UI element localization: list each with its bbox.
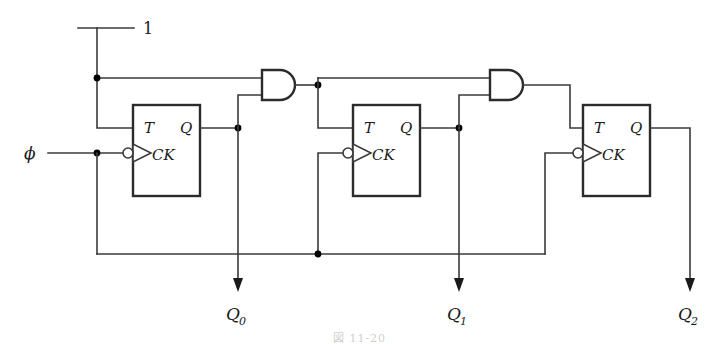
diagram-canvas: T Q CK T [0,0,719,344]
q2-label-sub: 2 [690,315,698,328]
logic-one-source [78,28,134,78]
and1-to-ff1-t [318,85,353,128]
q0-label-sub: 0 [239,315,246,328]
clock-net [48,150,583,258]
flipflop-0: T Q CK [123,105,200,196]
q2-output-drop [650,128,690,281]
and2-body [490,70,523,100]
q1-arrow-icon [454,278,464,292]
ff0-ck-triangle [133,144,151,162]
ff0-ck-bubble-icon [123,148,133,158]
q2-label: Q [678,304,692,324]
q2-arrow-icon [685,278,695,292]
logic-one-label: 1 [143,19,153,38]
ff2-pin-ck: CK [602,146,625,164]
junction-clock-ff1 [315,251,322,258]
q1-net [420,95,490,292]
and2-to-ff2-t [523,85,583,128]
ff1-ck-triangle [353,144,371,162]
q0-label: Q [226,304,240,324]
clock-riser-ff1 [318,153,353,254]
output-label-q1: Q 1 [447,304,467,328]
ff0-pin-ck: CK [152,146,175,164]
q1-label: Q [447,304,461,324]
and-gate-2 [490,70,583,128]
one-bus-to-ff0-t [97,78,133,128]
q1-to-and2-input [459,95,490,128]
and1-body [262,70,295,100]
q0-net [200,95,262,292]
ff2-pin-q: Q [630,119,642,137]
ff0-pin-t: T [144,119,155,137]
q2-net [650,128,695,292]
flipflop-1: T Q CK [343,105,420,196]
q0-arrow-icon [233,278,243,292]
figure-caption: 図 11-20 [0,332,719,344]
ff0-pin-q: Q [180,119,192,137]
ff1-pin-ck: CK [372,146,395,164]
ff1-ck-bubble-icon [343,148,353,158]
logic-one-bus [94,75,262,128]
junction-logic-one [94,75,101,82]
q0-to-and1-input [238,95,262,128]
ff2-ck-bubble-icon [573,148,583,158]
circuit-schematic: T Q CK T [0,0,719,344]
output-label-q2: Q 2 [678,304,698,328]
clock-input-label: ϕ [24,143,36,163]
output-label-q0: Q 0 [226,304,246,328]
ff1-pin-t: T [364,119,375,137]
ff1-pin-q: Q [400,119,412,137]
q1-label-sub: 1 [460,315,467,328]
flipflop-2: T Q CK [573,105,650,196]
clock-riser-ff2 [545,153,583,254]
and-gate-1 [262,70,490,128]
ff2-pin-t: T [594,119,605,137]
ff2-ck-triangle [583,144,601,162]
